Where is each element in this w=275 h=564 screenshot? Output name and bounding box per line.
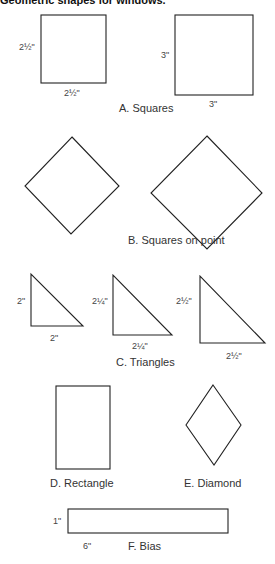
square-on-point-large: [151, 136, 262, 249]
diamond: [186, 385, 241, 465]
caption-squares: A. Squares: [119, 102, 173, 114]
caption-squares-on-point: B. Squares on point: [128, 234, 225, 246]
square-on-point-small: [25, 137, 119, 234]
square-large: [175, 15, 253, 95]
square-small-bottom-label: 2½": [64, 88, 80, 98]
rectangle: [56, 386, 110, 469]
triangle-medium: [113, 275, 172, 335]
square-small: [41, 15, 106, 83]
triangle-small: [31, 274, 83, 326]
triangle-large: [200, 276, 265, 343]
bias-strip: [68, 509, 228, 533]
triangle-large-bottom-label: 2½": [226, 351, 242, 361]
window-shapes-diagram: Geometric shapes for windows. 2½" 2½" 3"…: [0, 0, 275, 564]
triangle-medium-side-label: 2¼": [92, 296, 108, 306]
square-large-side-label: 3": [161, 50, 169, 60]
bias-bottom-label: 6": [83, 541, 91, 551]
triangle-small-side-label: 2": [17, 296, 25, 306]
caption-bias: F. Bias: [128, 540, 161, 552]
triangle-small-bottom-label: 2": [50, 333, 58, 343]
square-small-side-label: 2½": [19, 42, 35, 52]
square-large-bottom-label: 3": [209, 99, 217, 109]
caption-triangles: C. Triangles: [116, 356, 175, 368]
caption-rectangle: D. Rectangle: [50, 477, 114, 489]
triangle-medium-bottom-label: 2¼": [132, 341, 148, 351]
bias-side-label: 1": [53, 516, 61, 526]
caption-diamond: E. Diamond: [184, 477, 241, 489]
triangle-large-side-label: 2½": [176, 296, 192, 306]
